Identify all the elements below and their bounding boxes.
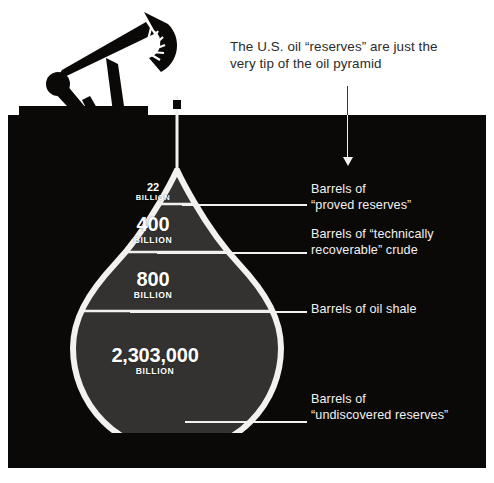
segment-number-1: 400 <box>103 214 203 235</box>
down-arrow-icon-shaft-upper <box>347 86 348 116</box>
droplet-segment-value-1: 400 BILLION <box>103 214 203 246</box>
droplet-segment-value-3: 2,303,000 BILLION <box>93 345 217 377</box>
oil-pyramid-infographic: The U.S. oil “reserves” are just the ver… <box>0 0 494 483</box>
down-arrow-icon-head <box>343 157 353 166</box>
leader-line-0 <box>182 204 307 206</box>
segment-unit-2: BILLION <box>103 290 203 301</box>
callout-label-proved-reserves: Barrels of “proved reserves” <box>311 181 483 213</box>
droplet-segment-value-2: 800 BILLION <box>103 269 203 301</box>
callout-label-undiscovered-reserves: Barrels of “undiscovered reserves” <box>311 391 489 423</box>
segment-unit-3: BILLION <box>93 366 217 377</box>
down-arrow-icon-shaft-lower <box>347 115 348 160</box>
leader-line-1 <box>157 252 307 254</box>
source-caption <box>110 472 480 481</box>
segment-number-3: 2,303,000 <box>93 345 217 366</box>
page-title: The U.S. oil “reserves” are just the ver… <box>230 38 480 72</box>
segment-unit-1: BILLION <box>103 235 203 246</box>
callout-label-oil-shale: Barrels of oil shale <box>311 301 489 317</box>
callout-label-technically-recoverable: Barrels of “technically recoverable” cru… <box>311 226 489 258</box>
segment-unit-0: BILLION <box>118 193 188 202</box>
leader-line-2 <box>130 311 307 313</box>
droplet-segment-value-0: 22 BILLION <box>118 182 188 202</box>
segment-number-0: 22 <box>118 182 188 193</box>
segment-number-2: 800 <box>103 269 203 290</box>
leader-line-3 <box>185 421 307 423</box>
